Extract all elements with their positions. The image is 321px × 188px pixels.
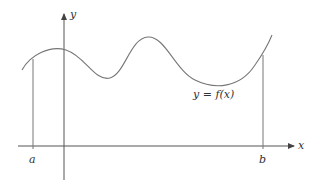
- graph-canvas: [0, 0, 321, 188]
- curve-label: y = f(x): [193, 88, 234, 101]
- y-axis-label: y: [70, 8, 76, 21]
- x-axis-label: x: [298, 139, 304, 152]
- b-label: b: [259, 153, 266, 166]
- a-label: a: [29, 153, 36, 166]
- function-curve: [22, 35, 272, 86]
- function-graph: y x y = f(x) a b: [0, 0, 321, 188]
